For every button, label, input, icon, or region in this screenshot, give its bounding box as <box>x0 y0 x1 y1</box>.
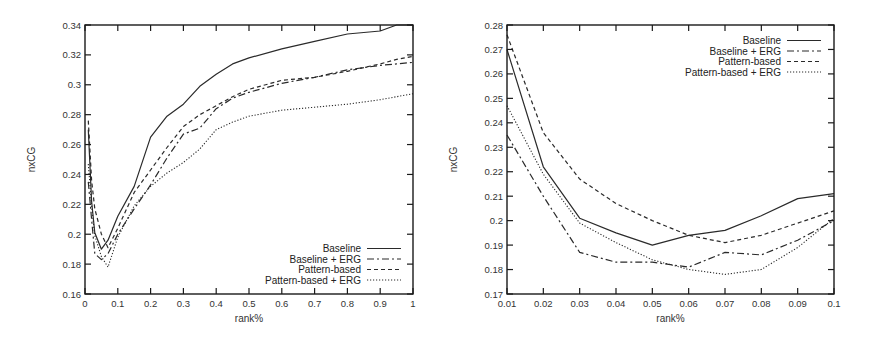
x-tick-label: 0.09 <box>788 298 807 309</box>
series-line-pattern-based-erg <box>507 106 834 275</box>
x-tick-label: 0 <box>82 298 87 309</box>
x-axis-label: rank% <box>656 313 684 324</box>
y-tick-label: 0.28 <box>63 109 82 120</box>
x-tick-label: 0.6 <box>275 298 288 309</box>
legend-label: Pattern-based + ERG <box>685 67 781 78</box>
plot-frame <box>85 25 413 294</box>
legend-label: Pattern-based + ERG <box>265 275 361 286</box>
legend-label: Baseline + ERG <box>290 254 362 265</box>
x-tick-label: 0.4 <box>210 298 223 309</box>
y-tick-label: 0.2 <box>68 229 81 240</box>
legend-label: Baseline <box>743 35 782 46</box>
y-tick-label: 0.34 <box>63 20 82 31</box>
x-tick-label: 0.05 <box>643 298 662 309</box>
x-tick-label: 0.9 <box>374 298 387 309</box>
legend: BaselineBaseline + ERGPattern-basedPatte… <box>265 243 401 286</box>
series-line-pattern-based-erg <box>88 94 413 267</box>
y-tick-label: 0.2 <box>490 215 503 226</box>
x-tick-label: 0.5 <box>242 298 255 309</box>
x-tick-label: 0.1 <box>827 298 840 309</box>
y-tick-label: 0.32 <box>63 49 82 60</box>
y-tick-label: 0.25 <box>485 93 504 104</box>
x-tick-label: 0.08 <box>752 298 771 309</box>
series-line-baseline-erg <box>88 62 413 259</box>
y-axis-label: nxCG <box>448 146 459 172</box>
legend-label: Baseline <box>323 243 362 254</box>
x-tick-label: 0.04 <box>607 298 626 309</box>
x-tick-label: 1 <box>410 298 415 309</box>
y-tick-label: 0.21 <box>485 191 504 202</box>
x-tick-label: 0.06 <box>679 298 698 309</box>
left-chart-plot: 00.10.20.30.40.50.60.70.80.910.160.180.2… <box>0 0 435 345</box>
y-tick-label: 0.24 <box>485 117 504 128</box>
plot-frame <box>507 25 834 294</box>
y-tick-label: 0.18 <box>63 259 82 270</box>
y-tick-label: 0.26 <box>485 68 504 79</box>
y-tick-label: 0.24 <box>63 169 82 180</box>
series-line-pattern-based <box>507 35 834 243</box>
x-tick-label: 0.1 <box>111 298 124 309</box>
y-tick-label: 0.3 <box>68 79 81 90</box>
x-tick-label: 0.8 <box>341 298 354 309</box>
series-line-baseline-erg <box>507 135 834 267</box>
y-tick-label: 0.17 <box>485 289 504 300</box>
x-tick-label: 0.07 <box>716 298 735 309</box>
y-axis-label: nxCG <box>26 146 37 172</box>
x-tick-label: 0.01 <box>498 298 517 309</box>
x-tick-label: 0.02 <box>534 298 553 309</box>
x-tick-label: 0.2 <box>144 298 157 309</box>
right-chart: 0.010.020.030.040.050.060.070.080.090.10… <box>435 0 869 345</box>
series-line-baseline <box>88 25 413 249</box>
y-tick-label: 0.19 <box>485 240 504 251</box>
y-tick-label: 0.22 <box>63 199 82 210</box>
y-tick-label: 0.22 <box>485 166 504 177</box>
series-line-pattern-based <box>88 56 413 247</box>
y-tick-label: 0.28 <box>485 20 504 31</box>
x-tick-label: 0.03 <box>570 298 589 309</box>
left-chart: 00.10.20.30.40.50.60.70.80.910.160.180.2… <box>0 0 435 345</box>
y-tick-label: 0.16 <box>63 289 82 300</box>
y-tick-label: 0.27 <box>485 44 504 55</box>
legend-label: Pattern-based <box>298 264 361 275</box>
x-tick-label: 0.3 <box>177 298 190 309</box>
x-axis-label: rank% <box>235 313 263 324</box>
legend: BaselineBaseline + ERGPattern-basedPatte… <box>685 35 821 78</box>
y-tick-label: 0.23 <box>485 142 504 153</box>
right-chart-plot: 0.010.020.030.040.050.060.070.080.090.10… <box>435 0 869 345</box>
legend-label: Baseline + ERG <box>710 46 782 57</box>
legend-label: Pattern-based <box>718 56 781 67</box>
y-tick-label: 0.18 <box>485 264 504 275</box>
x-tick-label: 0.7 <box>308 298 321 309</box>
y-tick-label: 0.26 <box>63 139 82 150</box>
